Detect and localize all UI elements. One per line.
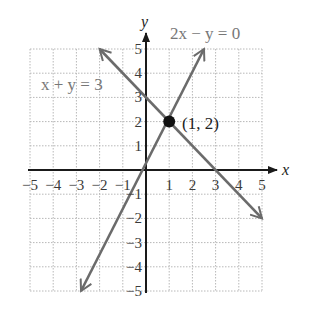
y-tick-label: −2 xyxy=(126,210,142,226)
y-tick-label: 2 xyxy=(135,114,143,130)
x-axis-label: x xyxy=(281,161,289,178)
x-tick-label: 5 xyxy=(258,177,266,193)
x-tick-label: 2 xyxy=(189,177,197,193)
x-tick-label: −2 xyxy=(92,177,108,193)
x-tick-label: 4 xyxy=(235,177,243,193)
y-tick-label: 4 xyxy=(135,65,143,81)
y-tick-label: 5 xyxy=(135,41,143,57)
y-tick-label: −5 xyxy=(126,283,142,299)
line2-equation-label: 2x − y = 0 xyxy=(170,24,240,43)
y-tick-label: 3 xyxy=(135,89,143,105)
line1-equation-label: x + y = 3 xyxy=(41,75,103,94)
x-tick-label: 3 xyxy=(212,177,220,193)
intersection-point-label: (1, 2) xyxy=(182,114,219,133)
y-tick-label: −3 xyxy=(126,235,142,251)
x-tick-label: −3 xyxy=(68,177,84,193)
y-tick-label: −4 xyxy=(126,259,142,275)
axes xyxy=(28,33,277,293)
y-tick-label: 1 xyxy=(135,138,143,154)
labels: y x 2x − y = 0 x + y = 3 (1, 2) xyxy=(41,13,289,178)
chart: −5−4−3−2−112345−5−4−3−2−112345 y x 2x − … xyxy=(0,0,312,321)
x-tick-label: −4 xyxy=(45,177,61,193)
y-tick-label: −1 xyxy=(126,186,142,202)
x-tick-label: −5 xyxy=(22,177,38,193)
x-tick-label: 1 xyxy=(165,177,173,193)
y-axis-label: y xyxy=(139,13,149,31)
intersection-point-marker xyxy=(163,116,175,128)
